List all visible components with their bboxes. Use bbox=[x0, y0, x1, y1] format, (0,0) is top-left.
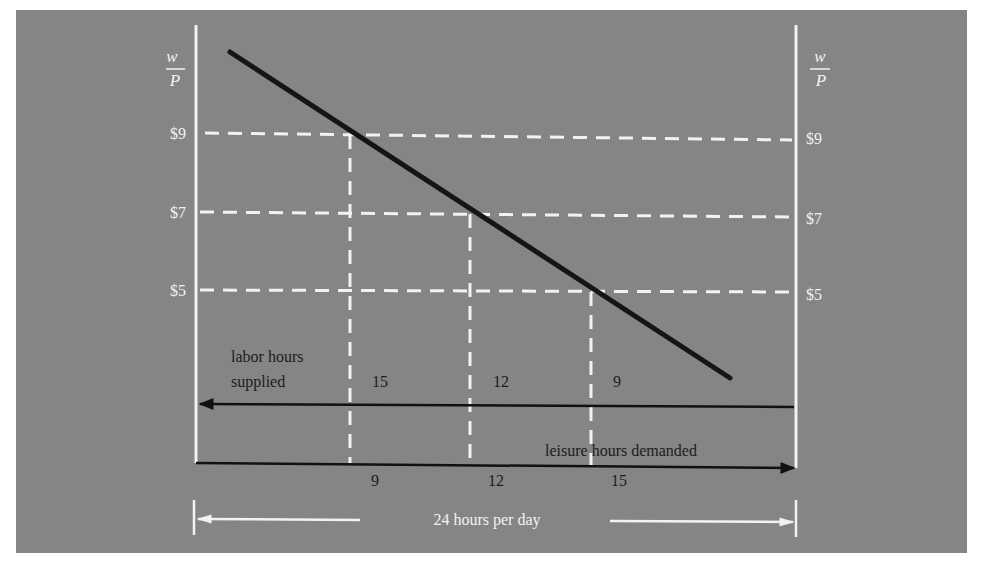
leisure-tick-12: 12 bbox=[488, 472, 504, 489]
dimension-arrow-right bbox=[610, 521, 793, 522]
labor-tick-15: 15 bbox=[372, 373, 388, 390]
right-tick-7: $7 bbox=[806, 210, 822, 227]
right-tick-5: $5 bbox=[806, 286, 822, 303]
wage-5-gridline bbox=[200, 290, 792, 292]
leisure-tick-9: 9 bbox=[371, 472, 379, 489]
labor-hours-label-line2: supplied bbox=[231, 373, 285, 391]
labor-hours-arrow bbox=[200, 404, 794, 407]
wage-9-gridline bbox=[205, 133, 792, 140]
right-tick-9: $9 bbox=[806, 130, 822, 147]
left-tick-5: $5 bbox=[170, 282, 186, 299]
left-tick-9: $9 bbox=[170, 125, 186, 142]
left-axis-label-denominator: P bbox=[169, 71, 180, 90]
labor-hours-label-line1: labor hours bbox=[231, 348, 303, 365]
labor-tick-12: 12 bbox=[493, 373, 509, 390]
right-axis-label-denominator: P bbox=[815, 71, 826, 90]
dimension-arrow-left bbox=[198, 519, 360, 520]
left-axis-label-numerator: w bbox=[166, 47, 178, 66]
wage-7-gridline bbox=[200, 212, 792, 217]
leisure-demand-line bbox=[230, 52, 730, 378]
labor-tick-9: 9 bbox=[613, 373, 621, 390]
right-axis-label-numerator: w bbox=[814, 47, 826, 66]
total-hours-label: 24 hours per day bbox=[433, 511, 540, 529]
leisure-hours-label: leisure hours demanded bbox=[545, 442, 697, 459]
leisure-hours-arrow bbox=[196, 463, 794, 468]
leisure-tick-15: 15 bbox=[611, 472, 627, 489]
left-tick-7: $7 bbox=[170, 204, 186, 221]
chart-canvas: w P w P $9 $7 $5 $9 $7 $5 labor hours su… bbox=[0, 0, 981, 561]
